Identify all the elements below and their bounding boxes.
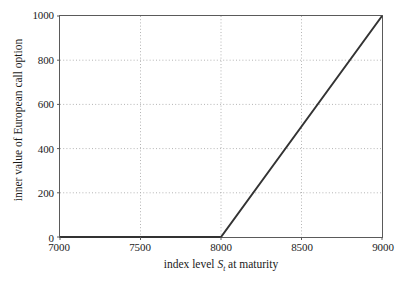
- x-tick-label: 7500: [129, 241, 151, 253]
- x-tick-label: 7000: [48, 241, 70, 253]
- x-axis-label-prefix: index level: [164, 258, 218, 270]
- y-tick-label: 600: [38, 98, 54, 110]
- x-tick-label: 8500: [291, 241, 313, 253]
- x-tick-label: 9000: [372, 241, 394, 253]
- y-tick-label: 1000: [32, 9, 54, 21]
- y-axis-tick-labels: 02004006008001000: [0, 15, 54, 238]
- x-tick-label: 8000: [210, 241, 232, 253]
- y-axis-label: inner value of European call option: [12, 9, 24, 232]
- y-tick-label: 200: [38, 187, 54, 199]
- data-series-call-payoff: [60, 16, 382, 237]
- y-tick-label: 800: [38, 54, 54, 66]
- x-axis-label-suffix: at maturity: [225, 258, 278, 270]
- x-axis-tick-labels: 70007500800085009000: [59, 241, 383, 257]
- x-axis-label: index level St at maturity: [59, 258, 383, 273]
- chart-figure: 02004006008001000 70007500800085009000 i…: [0, 0, 407, 282]
- plot-area: [59, 15, 383, 238]
- y-tick-label: 400: [38, 143, 54, 155]
